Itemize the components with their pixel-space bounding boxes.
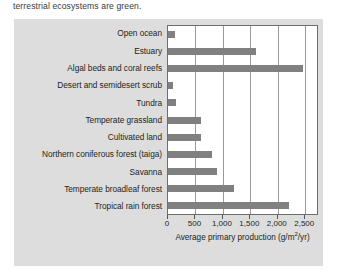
x-axis-tick-label: 2,500: [294, 219, 314, 228]
bar-row: [168, 77, 317, 94]
bar: [168, 168, 217, 175]
category-label: Northern coniferous forest (taiga): [18, 146, 166, 163]
x-axis-tick-labels: 05001,0001,5002,0002,500: [167, 219, 318, 231]
bar-row: [168, 197, 317, 214]
bar: [168, 117, 201, 124]
bar: [168, 31, 175, 38]
category-label: Tundra: [18, 94, 166, 111]
category-label: Cultivated land: [18, 129, 166, 146]
bar-row: [168, 163, 317, 180]
bar-row: [168, 60, 317, 77]
category-label: Estuary: [18, 42, 166, 59]
figure-panel: Open oceanEstuaryAlgal beds and coral re…: [14, 19, 323, 266]
x-axis-title: Average primary production (g/m2/yr): [167, 231, 318, 242]
bar-chart: Open oceanEstuaryAlgal beds and coral re…: [14, 19, 323, 266]
figure-caption-text: terrestrial ecosystems are green.: [13, 1, 141, 11]
bar-row: [168, 43, 317, 60]
bar: [168, 185, 234, 192]
bar: [168, 48, 256, 55]
x-axis-tick-label: 0: [165, 219, 169, 228]
bar-row: [168, 180, 317, 197]
bar-row: [168, 129, 317, 146]
x-axis-tick-label: 2,000: [267, 219, 287, 228]
category-label: Algal beds and coral reefs: [18, 60, 166, 77]
bar: [168, 134, 201, 141]
x-axis-title-prefix: Average primary production (g/m: [175, 233, 294, 242]
x-axis-tick-label: 500: [188, 219, 201, 228]
category-label: Tropical rain forest: [18, 198, 166, 215]
bar-row: [168, 26, 317, 43]
category-label: Temperate broadleaf forest: [18, 180, 166, 197]
bar: [168, 151, 212, 158]
x-axis-tick-label: 1,000: [212, 219, 232, 228]
x-axis-title-suffix: /yr): [298, 233, 310, 242]
category-label: Desert and semidesert scrub: [18, 77, 166, 94]
bar: [168, 202, 289, 209]
bar-row: [168, 94, 317, 111]
bar-row: [168, 146, 317, 163]
category-label: Temperate grassland: [18, 111, 166, 128]
bar-row: [168, 111, 317, 128]
category-label: Savanna: [18, 163, 166, 180]
bar: [168, 99, 176, 106]
x-axis-tick-label: 1,500: [239, 219, 259, 228]
bar: [168, 82, 173, 89]
plot-area: [167, 25, 318, 215]
bar-series: [168, 26, 317, 214]
category-axis-labels: Open oceanEstuaryAlgal beds and coral re…: [18, 25, 166, 215]
category-label: Open ocean: [18, 25, 166, 42]
bar: [168, 65, 303, 72]
